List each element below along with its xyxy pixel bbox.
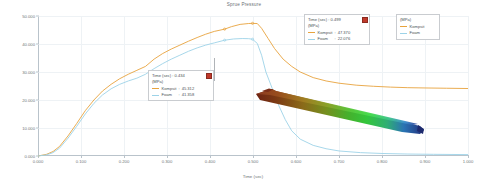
data-tooltip-kompsit-foam-0434[interactable]: Time (sec) : 0.434 (MPa) Kompsit : 45.31… bbox=[148, 70, 214, 101]
tooltip-row: Foam : 22.076 bbox=[308, 36, 366, 42]
tooltip-series-value: 22.076 bbox=[338, 36, 351, 42]
close-box-icon[interactable] bbox=[362, 17, 368, 23]
x-axis-label: Time (sec) bbox=[38, 174, 468, 179]
data-tooltip-kompsit-foam-0499[interactable]: Time (sec) : 0.499 (MPa) Kompsit : 47.37… bbox=[304, 14, 370, 45]
chart-title: Sprue Pressure bbox=[0, 2, 488, 7]
tooltip-series-value: 41.358 bbox=[182, 92, 195, 98]
tooltip-leader-line bbox=[214, 58, 215, 81]
tooltip-separator: : bbox=[179, 92, 180, 98]
gridline-vertical bbox=[468, 16, 469, 156]
y-tick-label: 50.000 bbox=[22, 14, 35, 19]
sprue-pressure-chart-view: Sprue Pressure 0.00010.00020.00030.00040… bbox=[0, 0, 488, 186]
series-swatch-foam bbox=[308, 39, 315, 40]
x-tick-label: 1.000 bbox=[463, 159, 473, 164]
part-top-face bbox=[256, 89, 418, 125]
legend-item-foam[interactable]: Foam bbox=[400, 30, 435, 37]
series-swatch-foam bbox=[152, 95, 159, 96]
part-3d-model-svg bbox=[252, 84, 432, 140]
x-tick-mark bbox=[468, 155, 469, 158]
x-tick-label: 0.300 bbox=[162, 159, 172, 164]
part-3d-model[interactable] bbox=[252, 84, 432, 140]
y-tick-label: 0.000 bbox=[25, 154, 35, 159]
x-tick-label: 0.200 bbox=[119, 159, 129, 164]
x-tick-label: 0.700 bbox=[334, 159, 344, 164]
y-tick-label: 30.000 bbox=[22, 70, 35, 75]
x-tick-label: 0.900 bbox=[420, 159, 430, 164]
y-tick-label: 40.000 bbox=[22, 42, 35, 47]
tooltip-separator: : bbox=[335, 36, 336, 42]
tooltip-series-name: Foam bbox=[162, 92, 179, 98]
tooltip-row: Foam : 41.358 bbox=[152, 92, 210, 98]
y-tick-label: 10.000 bbox=[22, 126, 35, 131]
close-box-icon[interactable] bbox=[206, 73, 212, 79]
chart-legend[interactable]: (MPa) Kompsit Foam bbox=[396, 14, 440, 40]
series-swatch-kompsit bbox=[152, 88, 159, 89]
series-swatch-foam bbox=[400, 33, 407, 34]
series-swatch-kompsit bbox=[400, 26, 407, 27]
x-tick-label: 0.600 bbox=[291, 159, 301, 164]
x-tick-label: 0.100 bbox=[76, 159, 86, 164]
x-tick-label: 0.000 bbox=[33, 159, 43, 164]
x-tick-label: 0.400 bbox=[205, 159, 215, 164]
x-tick-label: 0.500 bbox=[248, 159, 258, 164]
x-tick-label: 0.800 bbox=[377, 159, 387, 164]
tooltip-series-name: Foam bbox=[318, 36, 335, 42]
y-tick-label: 20.000 bbox=[22, 98, 35, 103]
series-swatch-kompsit bbox=[308, 32, 315, 33]
legend-item-label: Foam bbox=[410, 30, 420, 37]
